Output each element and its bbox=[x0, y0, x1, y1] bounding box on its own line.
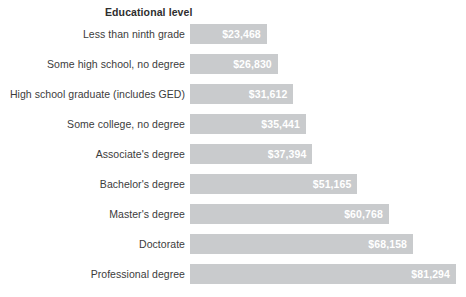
bar-value-label: $51,165 bbox=[313, 174, 352, 194]
bar-row: High school graduate (includes GED)$31,6… bbox=[0, 84, 466, 104]
bar-track: $23,468 bbox=[190, 24, 466, 44]
bar-fill: $51,165 bbox=[190, 174, 357, 194]
bar-category-label: High school graduate (includes GED) bbox=[10, 84, 185, 104]
bar-row: Some college, no degree$35,441 bbox=[0, 114, 466, 134]
bar-value-label: $35,441 bbox=[261, 114, 300, 134]
bar-chart-plot-area: Less than ninth grade$23,468Some high sc… bbox=[0, 24, 466, 294]
bar-fill: $35,441 bbox=[190, 114, 306, 134]
bar-category-label: Some college, no degree bbox=[67, 114, 185, 134]
bar-value-label: $31,612 bbox=[249, 84, 288, 104]
bar-row: Some high school, no degree$26,830 bbox=[0, 54, 466, 74]
bar-category-label: Master's degree bbox=[109, 204, 185, 224]
bar-row: Associate's degree$37,394 bbox=[0, 144, 466, 164]
bar-fill: $23,468 bbox=[190, 24, 267, 44]
bar-value-label: $26,830 bbox=[233, 54, 272, 74]
bar-row: Bachelor's degree$51,165 bbox=[0, 174, 466, 194]
bar-track: $31,612 bbox=[190, 84, 466, 104]
bar-category-label: Associate's degree bbox=[96, 144, 185, 164]
bar-chart: Educational level Less than ninth grade$… bbox=[0, 0, 466, 297]
bar-fill: $31,612 bbox=[190, 84, 293, 104]
bar-category-label: Bachelor's degree bbox=[100, 174, 185, 194]
bar-fill: $26,830 bbox=[190, 54, 278, 74]
bar-value-label: $23,468 bbox=[222, 24, 261, 44]
bar-fill: $68,158 bbox=[190, 234, 413, 254]
chart-title: Educational level bbox=[105, 6, 192, 18]
bar-track: $26,830 bbox=[190, 54, 466, 74]
bar-fill: $60,768 bbox=[190, 204, 389, 224]
bar-fill: $81,294 bbox=[190, 264, 456, 284]
bar-row: Professional degree$81,294 bbox=[0, 264, 466, 284]
bar-track: $81,294 bbox=[190, 264, 466, 284]
bar-fill: $37,394 bbox=[190, 144, 312, 164]
bar-track: $51,165 bbox=[190, 174, 466, 194]
bar-track: $37,394 bbox=[190, 144, 466, 164]
bar-track: $60,768 bbox=[190, 204, 466, 224]
bar-category-label: Some high school, no degree bbox=[47, 54, 185, 74]
bar-track: $35,441 bbox=[190, 114, 466, 134]
bar-row: Less than ninth grade$23,468 bbox=[0, 24, 466, 44]
bar-row: Master's degree$60,768 bbox=[0, 204, 466, 224]
bar-category-label: Doctorate bbox=[139, 234, 185, 254]
bar-value-label: $60,768 bbox=[344, 204, 383, 224]
bar-row: Doctorate$68,158 bbox=[0, 234, 466, 254]
bar-value-label: $37,394 bbox=[268, 144, 307, 164]
bar-value-label: $81,294 bbox=[411, 264, 450, 284]
bar-category-label: Professional degree bbox=[91, 264, 185, 284]
bar-category-label: Less than ninth grade bbox=[83, 24, 185, 44]
bar-value-label: $68,158 bbox=[368, 234, 407, 254]
bar-track: $68,158 bbox=[190, 234, 466, 254]
